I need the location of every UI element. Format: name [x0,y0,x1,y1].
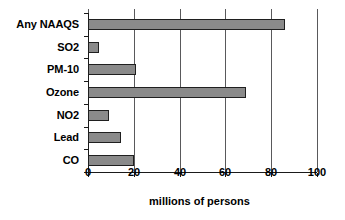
x-axis-top-tick-100 [317,9,318,13]
gridline-100 [317,13,318,172]
bar-any-naaqs [88,19,285,30]
y-axis-tick-6 [84,149,88,150]
bar-lead [88,132,121,143]
bar-slot [88,104,317,127]
y-axis-label-so2: SO2 [0,36,84,59]
y-axis-label-co: CO [0,149,84,172]
bar-no2 [88,110,109,121]
bar-slot [88,127,317,150]
bar-slot [88,36,317,59]
y-axis-tick-3 [84,81,88,82]
x-axis-tick-label-20: 20 [128,167,140,178]
bar-series [88,13,317,172]
y-axis-category-labels: Any NAAQS SO2 PM-10 Ozone NO2 Lead CO [0,13,84,172]
bar-slot [88,13,317,36]
bar-slot [88,81,317,104]
y-axis-label-any-naaqs: Any NAAQS [0,13,84,36]
bar-ozone [88,87,246,98]
y-axis-tick-0 [84,13,88,14]
x-axis-tick-label-100: 100 [308,167,326,178]
x-axis-tick-label-40: 40 [174,167,186,178]
y-axis-tick-2 [84,58,88,59]
y-axis-tick-4 [84,104,88,105]
x-axis-title: millions of persons [0,196,345,207]
bar-chart: Any NAAQS SO2 PM-10 Ozone NO2 Lead CO 02… [0,0,345,220]
x-axis-tick-labels: 020406080100 [88,167,317,185]
bar-co [88,155,134,166]
x-axis-tick-label-0: 0 [85,167,91,178]
y-axis-label-no2: NO2 [0,104,84,127]
plot-area [88,13,317,172]
y-axis-label-lead: Lead [0,127,84,150]
y-axis-tick-1 [84,36,88,37]
y-axis-tick-5 [84,127,88,128]
x-axis-title-text: millions of persons [95,196,250,207]
y-axis-label-pm-10: PM-10 [0,58,84,81]
bar-so2 [88,42,99,53]
bar-pm-10 [88,64,136,75]
x-axis-tick-label-80: 80 [265,167,277,178]
y-axis-label-ozone: Ozone [0,81,84,104]
bar-slot [88,58,317,81]
x-axis-tick-label-60: 60 [219,167,231,178]
